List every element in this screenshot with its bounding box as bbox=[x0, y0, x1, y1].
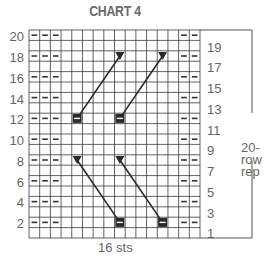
cable-symbols bbox=[73, 52, 168, 227]
knitting-chart-grid bbox=[0, 0, 280, 260]
repeat-label-line2: rep bbox=[241, 166, 280, 178]
grid-lines bbox=[29, 30, 200, 238]
repeat-bracket bbox=[200, 30, 252, 238]
stitch-count-label: 16 sts bbox=[98, 240, 133, 255]
repeat-label-line1: 20-row bbox=[241, 142, 280, 166]
repeat-label: 20-row rep bbox=[241, 142, 280, 178]
